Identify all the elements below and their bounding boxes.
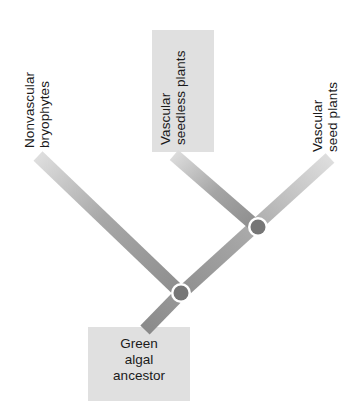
phylogenetic-tree-figure: Nonvascular bryophytes Vascular seedless… bbox=[0, 0, 360, 401]
node-basal-dot bbox=[174, 286, 189, 301]
tip-label-vascular-seed-plants: Vascular seed plants bbox=[310, 82, 340, 152]
root-label-green-algal-ancestor: Green algal ancestor bbox=[88, 336, 190, 384]
tip-label-line2: seed plants bbox=[325, 82, 340, 152]
node-vascular-dot bbox=[251, 220, 266, 235]
root-label-line2: algal bbox=[125, 352, 154, 367]
tip-label-vascular-seedless-plants: Vascular seedless plants bbox=[158, 50, 188, 145]
tip-label-line2: bryophytes bbox=[37, 81, 52, 148]
tip-label-line1: Nonvascular bbox=[22, 72, 37, 148]
tip-label-nonvascular-bryophytes: Nonvascular bryophytes bbox=[22, 72, 52, 148]
root-label-line1: Green bbox=[120, 336, 158, 351]
branch-vascular-seedless-plants bbox=[174, 155, 258, 228]
tip-label-line1: Vascular bbox=[158, 93, 173, 145]
branch-nonvascular-bryophytes bbox=[38, 156, 181, 293]
root-label-line3: ancestor bbox=[113, 368, 165, 383]
tip-label-line1: Vascular bbox=[310, 100, 325, 152]
tip-label-line2: seedless plants bbox=[173, 50, 188, 145]
